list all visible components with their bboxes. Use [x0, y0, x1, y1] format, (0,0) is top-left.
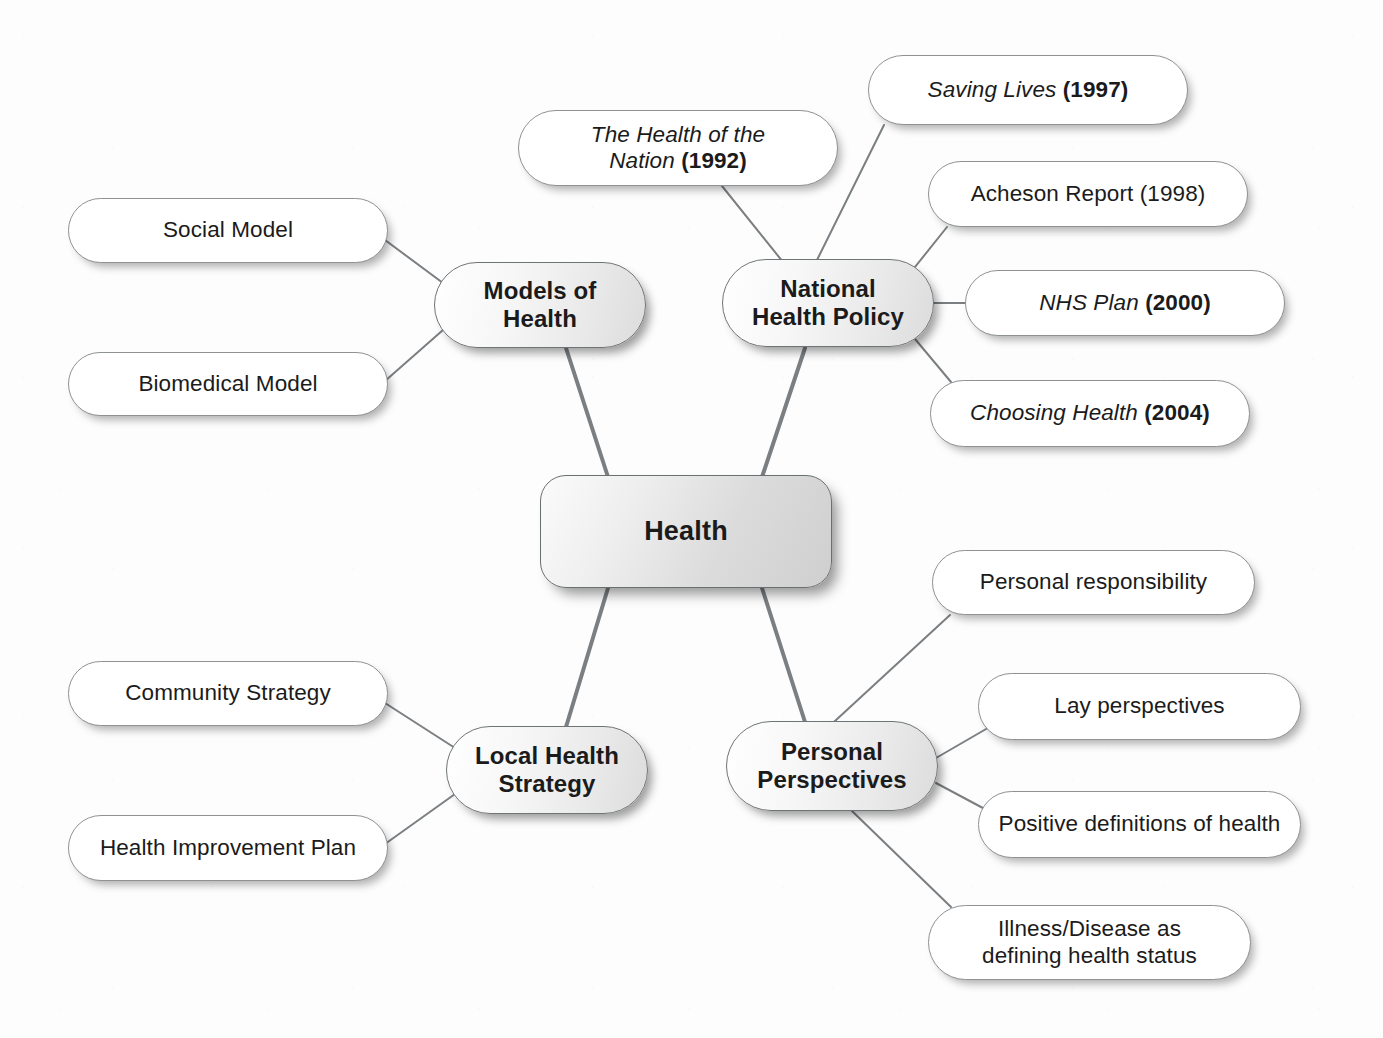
leaf-node-social-model[interactable]: Social Model	[68, 198, 388, 263]
leaf-node-label: Positive definitions of health	[999, 811, 1281, 837]
connector-models-of-health-to-social-model	[385, 240, 443, 283]
leaf-node-label: Community Strategy	[125, 680, 331, 706]
leaf-node-label: Acheson Report (1998)	[971, 181, 1206, 207]
central-node-label: Health	[644, 516, 728, 547]
publication-title: Saving Lives	[928, 77, 1063, 102]
connector-personal-perspectives-to-lay-perspectives	[936, 725, 993, 758]
spoke-health-to-national-health-policy	[762, 348, 805, 477]
branch-node-local-health-strategy[interactable]: Local Health Strategy	[446, 726, 648, 814]
publication-title: Choosing Health	[970, 400, 1144, 425]
leaf-node-label: Health Improvement Plan	[100, 835, 356, 861]
publication-year: (2004)	[1144, 400, 1210, 425]
leaf-node-label: Biomedical Model	[138, 371, 317, 397]
leaf-node-choosing-health[interactable]: Choosing Health (2004)	[930, 380, 1250, 447]
publication-year: (1992)	[681, 148, 747, 173]
leaf-node-label: Social Model	[163, 217, 293, 243]
publication-title: NHS Plan	[1039, 290, 1145, 315]
leaf-node-saving-lives[interactable]: Saving Lives (1997)	[868, 55, 1188, 125]
leaf-node-label: Personal responsibility	[980, 569, 1207, 595]
leaf-node-biomedical-model[interactable]: Biomedical Model	[68, 352, 388, 416]
spoke-health-to-personal-perspectives	[762, 588, 805, 722]
leaf-node-the-health-of-the-nation[interactable]: The Health of the Nation (1992)	[518, 110, 838, 186]
branch-node-label: Models of Health	[484, 277, 597, 333]
spoke-health-to-models-of-health	[566, 348, 608, 477]
connector-models-of-health-to-biomedical-model	[385, 330, 443, 381]
branch-node-national-health-policy[interactable]: National Health Policy	[722, 259, 934, 347]
leaf-node-label: Choosing Health (2004)	[970, 400, 1210, 426]
leaf-node-label: Saving Lives (1997)	[928, 77, 1129, 103]
leaf-node-label: NHS Plan (2000)	[1039, 290, 1211, 316]
branch-node-models-of-health[interactable]: Models of Health	[434, 262, 646, 348]
branch-node-personal-perspectives[interactable]: Personal Perspectives	[726, 721, 938, 811]
leaf-node-illness-disease-defining-health-status[interactable]: Illness/Disease as defining health statu…	[928, 905, 1251, 980]
leaf-node-positive-definitions-of-health[interactable]: Positive definitions of health	[978, 791, 1301, 858]
leaf-node-personal-responsibility[interactable]: Personal responsibility	[932, 550, 1255, 615]
branch-node-label: National Health Policy	[752, 275, 904, 331]
leaf-node-nhs-plan[interactable]: NHS Plan (2000)	[965, 270, 1285, 336]
publication-year: (1997)	[1063, 77, 1129, 102]
connector-local-health-strategy-to-community-strategy	[385, 703, 455, 748]
leaf-node-community-strategy[interactable]: Community Strategy	[68, 661, 388, 726]
leaf-node-label: Lay perspectives	[1054, 693, 1224, 719]
mind-map-canvas: HealthModels of HealthNational Health Po…	[0, 0, 1383, 1038]
spoke-health-to-local-health-strategy	[566, 588, 608, 727]
branch-node-label: Local Health Strategy	[475, 742, 619, 798]
branch-node-label: Personal Perspectives	[757, 738, 906, 794]
connector-personal-perspectives-to-illness-disease-defining-health-status	[852, 811, 951, 907]
leaf-node-label: Illness/Disease as defining health statu…	[982, 916, 1197, 968]
leaf-node-label: The Health of the Nation (1992)	[591, 122, 765, 174]
leaf-node-health-improvement-plan[interactable]: Health Improvement Plan	[68, 815, 388, 881]
connector-local-health-strategy-to-health-improvement-plan	[385, 794, 455, 844]
leaf-node-acheson-report[interactable]: Acheson Report (1998)	[928, 161, 1248, 227]
leaf-node-lay-perspectives[interactable]: Lay perspectives	[978, 673, 1301, 740]
central-node-health[interactable]: Health	[540, 475, 832, 588]
publication-year: (2000)	[1145, 290, 1211, 315]
connector-national-health-policy-to-the-health-of-the-nation	[722, 186, 783, 262]
